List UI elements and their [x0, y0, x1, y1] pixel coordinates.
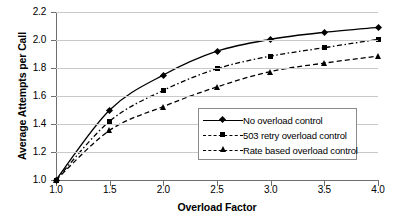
data-point-marker — [375, 53, 381, 59]
data-point-marker — [53, 177, 59, 183]
square-marker-icon — [220, 132, 225, 137]
x-tick-label: 2.5 — [200, 185, 234, 195]
data-point-marker — [214, 84, 220, 90]
legend-label: Rate based overload control — [243, 146, 358, 156]
x-tick-label: 1.0 — [39, 185, 73, 195]
data-point-marker — [161, 88, 166, 93]
x-tick-label: 2.0 — [146, 185, 180, 195]
legend-swatch-triangle-dashed — [203, 144, 243, 157]
legend-swatch-diamond-solid — [203, 114, 243, 127]
gridline — [56, 96, 378, 97]
gridline — [56, 40, 378, 41]
x-tick-label: 3.0 — [254, 185, 288, 195]
legend-item-no-overload-control: No overload control — [203, 113, 352, 128]
gridline — [56, 68, 378, 69]
data-point-marker — [160, 104, 166, 110]
data-point-marker — [107, 119, 112, 124]
legend-label: 503 retry overload control — [243, 131, 347, 141]
x-tick-label: 4.0 — [361, 185, 395, 195]
diamond-marker-icon — [219, 116, 226, 123]
x-axis-title: Overload Factor — [56, 201, 378, 213]
legend-label: No overload control — [243, 116, 323, 126]
legend-item-503-retry-overload-control: 503 retry overload control — [203, 128, 352, 143]
triangle-marker-icon — [220, 146, 226, 152]
data-point-marker — [268, 54, 273, 59]
gridline — [56, 12, 378, 13]
y-axis-title: Average Attempts per Call — [16, 11, 28, 181]
chart-legend: No overload control 503 retry overload c… — [198, 108, 357, 160]
legend-swatch-square-dashdot — [203, 129, 243, 142]
x-tick-label: 3.5 — [307, 185, 341, 195]
chart-container: 1.01.21.41.61.82.02.2 1.01.52.02.53.03.5… — [0, 0, 399, 222]
data-point-marker — [267, 69, 273, 75]
data-point-marker — [106, 127, 112, 133]
data-point-marker — [322, 45, 327, 50]
x-tick-label: 1.5 — [93, 185, 127, 195]
data-point-marker — [321, 60, 327, 66]
legend-item-rate-based-overload-control: Rate based overload control — [203, 143, 352, 158]
